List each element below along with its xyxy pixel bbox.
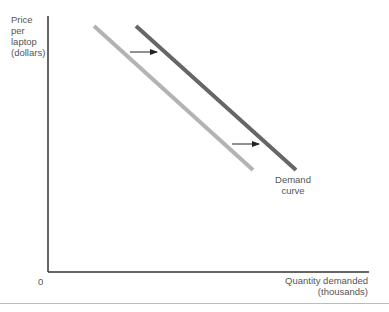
x-axis-label: Quantity demanded (thousands): [285, 275, 368, 297]
x-label-line: Quantity demanded: [285, 275, 368, 286]
y-label-line: laptop: [11, 36, 51, 47]
y-label-line: Price: [11, 14, 51, 25]
y-label-line: (dollars): [11, 47, 51, 58]
bottom-divider: [0, 303, 389, 304]
demand-curve-annotation: Demand curve: [271, 174, 315, 196]
y-axis-label: Price per laptop (dollars): [11, 14, 51, 58]
demand-shift-chart: Price per laptop (dollars) 0 Quantity de…: [0, 0, 389, 312]
chart-canvas: [0, 0, 389, 312]
y-label-line: per: [11, 25, 51, 36]
original-demand-curve: [94, 26, 253, 170]
annotation-line: Demand: [271, 174, 315, 185]
annotation-line: curve: [271, 185, 315, 196]
shifted-demand-curve: [136, 26, 296, 170]
x-label-line: (thousands): [285, 286, 368, 297]
origin-label: 0: [38, 276, 43, 287]
